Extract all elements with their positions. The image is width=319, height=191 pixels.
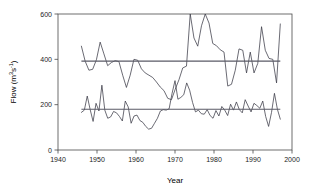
reference-mean-lines [81,61,280,109]
lower-series-line [81,81,280,130]
x-tick-label: 1990 [245,156,261,163]
y-tick-label: 200 [40,101,52,108]
y-tick-label: 400 [40,56,52,63]
x-tick-label: 2000 [284,156,300,163]
x-axis-ticks: 1940195019601970198019902000 [50,150,300,163]
flow-time-series-chart: 0200400600 1940195019601970198019902000 … [0,0,319,191]
y-axis-title-base: Flow (m [9,75,18,104]
x-tick-label: 1970 [167,156,183,163]
upper-series-line [81,14,280,100]
y-axis-title-close: ) [9,60,18,63]
x-tick-label: 1940 [50,156,66,163]
y-tick-label: 600 [40,11,52,18]
data-series-group [81,14,280,129]
x-tick-label: 1950 [89,156,105,163]
y-axis-ticks: 0200400600 [40,11,58,154]
y-axis-title: Flow (m3s-1) [8,60,18,103]
y-tick-label: 0 [48,147,52,154]
x-tick-label: 1960 [128,156,144,163]
chart-canvas: 0200400600 1940195019601970198019902000 … [0,0,319,191]
x-axis-title: Year [167,176,184,185]
x-tick-label: 1980 [206,156,222,163]
